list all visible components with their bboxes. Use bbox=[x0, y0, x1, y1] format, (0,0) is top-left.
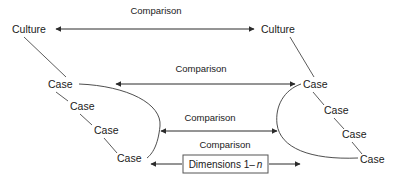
connector-culture-left-to-case bbox=[24, 37, 66, 77]
connector-right-case1-case2 bbox=[313, 92, 324, 105]
connector-right-case3-case4 bbox=[352, 142, 362, 154]
diagram-svg: Culture Culture Comparison Case Case Cas… bbox=[0, 0, 398, 179]
node-culture-left: Culture bbox=[12, 23, 46, 35]
connector-right-case2-case3 bbox=[334, 118, 344, 129]
node-right-case-3: Case bbox=[342, 128, 367, 140]
node-left-case-4: Case bbox=[117, 152, 142, 164]
node-left-case-3: Case bbox=[94, 124, 119, 136]
edge-label-comparison-cases-3: Comparison bbox=[199, 139, 250, 150]
connector-left-case2-case3 bbox=[80, 114, 92, 125]
dimensions-box-prefix: Dimensions 1– bbox=[189, 159, 257, 170]
edge-label-comparison-cases-2: Comparison bbox=[184, 112, 235, 123]
node-left-case-2: Case bbox=[70, 100, 95, 112]
node-right-case-2: Case bbox=[324, 104, 349, 116]
dimensions-box-label: Dimensions 1– n bbox=[189, 159, 263, 170]
node-culture-right: Culture bbox=[261, 23, 295, 35]
node-right-case-4: Case bbox=[360, 153, 385, 165]
right-case-cluster-arc bbox=[277, 84, 358, 158]
node-right-case-1: Case bbox=[303, 78, 328, 90]
diagram-canvas: Culture Culture Comparison Case Case Cas… bbox=[0, 0, 398, 179]
edge-label-comparison-cultures: Comparison bbox=[130, 5, 181, 16]
connector-culture-right-to-case bbox=[290, 37, 314, 77]
connector-left-case1-case2 bbox=[56, 92, 68, 101]
dimensions-box-variable: n bbox=[257, 159, 263, 170]
left-case-cluster-arc bbox=[79, 84, 160, 158]
connector-left-case3-case4 bbox=[104, 138, 117, 153]
node-left-case-1: Case bbox=[48, 78, 73, 90]
edge-label-comparison-cases-1: Comparison bbox=[175, 63, 226, 74]
